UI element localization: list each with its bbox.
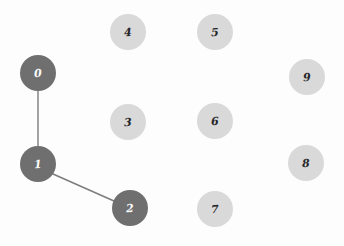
graph-node-label-7: 7	[211, 203, 219, 214]
graph-node-0[interactable]: 0	[20, 55, 56, 91]
edge-layer	[0, 0, 344, 246]
graph-node-label-5: 5	[211, 26, 219, 37]
graph-node-8[interactable]: 8	[288, 145, 324, 181]
graph-node-label-1: 1	[34, 158, 42, 169]
graph-node-9[interactable]: 9	[289, 59, 325, 95]
graph-node-label-4: 4	[124, 26, 132, 37]
graph-node-3[interactable]: 3	[110, 104, 146, 140]
graph-canvas: 0123456789	[0, 0, 344, 246]
graph-node-label-3: 3	[124, 116, 132, 127]
graph-node-label-8: 8	[302, 157, 310, 168]
graph-node-5[interactable]: 5	[197, 14, 233, 50]
graph-node-7[interactable]: 7	[197, 191, 233, 227]
graph-node-label-6: 6	[211, 115, 219, 126]
graph-node-2[interactable]: 2	[112, 190, 148, 226]
graph-node-label-9: 9	[303, 71, 311, 82]
graph-node-1[interactable]: 1	[20, 146, 56, 182]
graph-edge-1-2	[53, 174, 114, 201]
graph-node-4[interactable]: 4	[110, 14, 146, 50]
graph-node-label-2: 2	[126, 202, 134, 213]
graph-node-6[interactable]: 6	[197, 103, 233, 139]
graph-node-label-0: 0	[34, 67, 42, 78]
